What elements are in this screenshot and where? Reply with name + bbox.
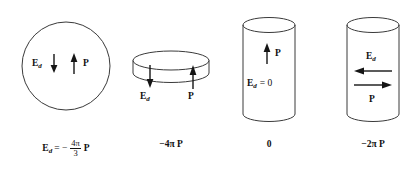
cylinder-transverse-polarization-arrow-right-icon	[354, 80, 392, 90]
sphere-caption: Ed= − 4π 3 P	[0, 139, 132, 159]
thin-disk-field-arrow-down-icon	[144, 65, 156, 89]
thin-disk-field-label: Ed	[140, 92, 150, 103]
thin-disk-shape	[130, 48, 212, 88]
thin-disk-polarization-arrow-up-icon	[187, 65, 199, 89]
cylinder-axial-field-label: Ed= 0	[247, 79, 272, 90]
cylinder-axial-polarization-arrow-up-icon	[261, 43, 273, 64]
sphere-polarization-label: P	[83, 59, 89, 69]
thin-disk-polarization-label: P	[188, 92, 194, 102]
depolarization-figure: Ed P Ed= − 4π 3 P Ed	[0, 0, 420, 171]
cylinder-axial-shape	[240, 15, 298, 129]
cylinder-axial-caption: 0	[234, 139, 304, 149]
sphere-caption-fraction: 4π 3	[70, 139, 81, 159]
cylinder-transverse-field-arrow-left-icon	[354, 66, 392, 76]
cylinder-transverse-polarization-label: P	[369, 95, 375, 105]
thin-disk-caption: −4π P	[128, 139, 214, 149]
cylinder-transverse-caption: −2π P	[338, 139, 408, 149]
sphere-field-arrow-down-icon	[48, 54, 60, 74]
cylinder-transverse-field-label: Ed	[366, 52, 376, 63]
cylinder-axial-polarization-label: P	[275, 49, 281, 59]
sphere-field-label: Ed	[32, 59, 42, 70]
sphere-polarization-arrow-up-icon	[68, 53, 80, 74]
